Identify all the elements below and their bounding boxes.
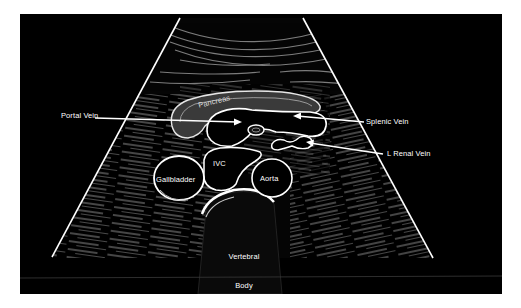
label-vertebral-line2: Body bbox=[222, 281, 266, 291]
label-splenic-vein: Splenic Vein bbox=[366, 118, 408, 126]
sma-outline bbox=[248, 125, 264, 135]
label-vertebral-line1: Vertebral bbox=[222, 252, 266, 262]
label-aorta: Aorta bbox=[260, 175, 278, 183]
label-gallbladder: Gallbladder bbox=[156, 176, 195, 184]
label-portal-vein: Portal Vein bbox=[61, 112, 98, 120]
label-l-renal-vein: L Renal Vein bbox=[387, 150, 430, 158]
label-vertebral-body-shadow: Vertebral Body Shadow bbox=[222, 233, 266, 294]
ultrasound-panel: Pancreas Portal Vein Splenic Vein L Rena… bbox=[20, 14, 502, 294]
label-ivc: IVC bbox=[213, 160, 226, 168]
